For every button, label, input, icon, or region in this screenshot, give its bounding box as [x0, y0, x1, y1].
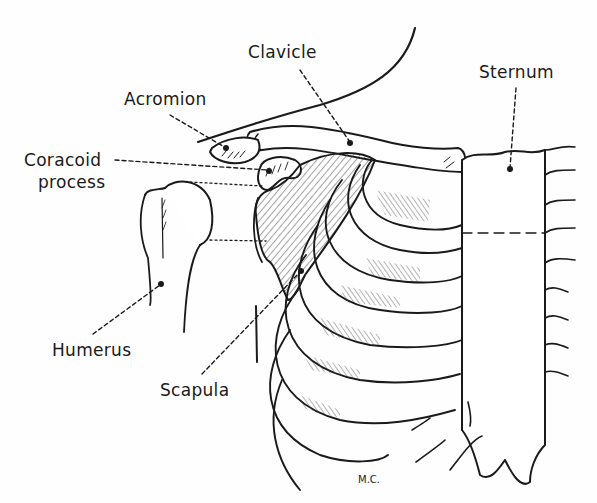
label-acromion: Acromion: [124, 89, 207, 109]
label-coracoid-line2: process: [38, 172, 105, 192]
leader-scapula: [202, 272, 300, 374]
humerus-bone: [141, 182, 213, 332]
label-coracoid-line1: Coracoid: [24, 150, 101, 170]
dot-humerus: [158, 281, 164, 287]
dotted-guide-line: [190, 182, 262, 186]
sternum-bone: [462, 150, 545, 484]
dot-coracoid: [266, 168, 272, 174]
dot-acromion: [223, 145, 229, 151]
dotted-guide-line: [210, 240, 266, 241]
label-humerus: Humerus: [52, 340, 131, 360]
anatomy-diagram: Clavicle Sternum Acromion Coracoid proce…: [0, 0, 597, 503]
dot-sternum: [507, 166, 513, 172]
right-costal-margin: [545, 147, 575, 376]
acromion: [210, 138, 259, 164]
dot-scapula: [298, 268, 304, 274]
label-clavicle: Clavicle: [248, 42, 317, 62]
scapula-edge-mark: [256, 306, 257, 362]
artist-signature: M.C.: [358, 474, 380, 485]
leader-humerus: [93, 285, 160, 334]
dot-clavicle: [347, 140, 353, 146]
label-scapula: Scapula: [160, 380, 229, 400]
label-sternum: Sternum: [479, 62, 554, 82]
